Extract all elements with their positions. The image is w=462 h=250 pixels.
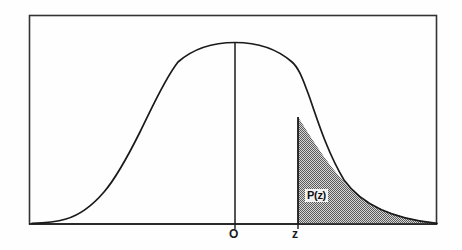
plot-canvas: [0, 0, 462, 250]
tail-shaded-region: [298, 117, 437, 224]
normal-distribution-figure: O z P(z): [0, 0, 462, 250]
plot-frame: [30, 16, 437, 225]
probability-region-label: P(z): [305, 189, 328, 202]
axis-label-origin: O: [229, 228, 239, 240]
axis-label-z: z: [292, 228, 299, 240]
